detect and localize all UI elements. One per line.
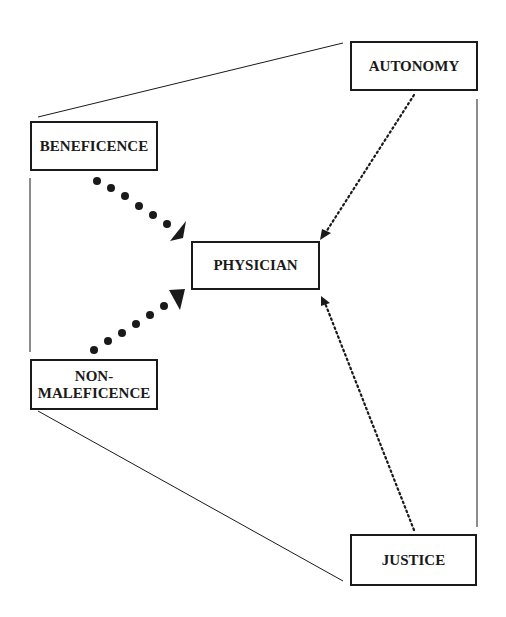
node-justice-label: JUSTICE (382, 552, 445, 569)
node-non-maleficence-label-line1: NON- (75, 368, 113, 385)
arrowhead-icon (320, 229, 331, 240)
arrowhead-icon (321, 296, 330, 306)
node-physician-label: PHYSICIAN (213, 257, 297, 274)
node-beneficence: BENEFICENCE (30, 121, 158, 171)
edge-justice-physician (321, 296, 414, 530)
node-non-maleficence-label-line2: MALEFICENCE (38, 385, 151, 402)
node-beneficence-label: BENEFICENCE (40, 138, 148, 155)
node-non-maleficence: NON- MALEFICENCE (30, 359, 158, 410)
edge-autonomy-physician (320, 95, 414, 240)
edge-beneficence-autonomy (38, 43, 343, 117)
arrowhead-icon (169, 289, 185, 310)
node-justice: JUSTICE (350, 534, 477, 586)
node-autonomy: AUTONOMY (350, 41, 478, 91)
edge-beneficence-physician (93, 177, 186, 241)
node-autonomy-label: AUTONOMY (369, 58, 460, 75)
edge-justice-nonmaleficence (38, 411, 343, 581)
arrowhead-icon (170, 221, 186, 241)
diagram-connections (0, 0, 506, 617)
edge-nonmaleficence-physician (90, 289, 185, 354)
node-physician: PHYSICIAN (191, 241, 320, 290)
